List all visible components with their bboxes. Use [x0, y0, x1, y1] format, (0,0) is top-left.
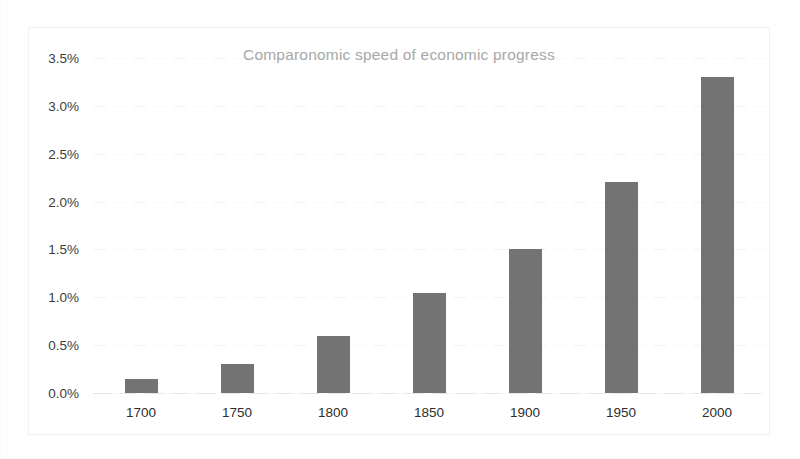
- y-axis-tick-label: 3.0%: [48, 98, 79, 113]
- gridline: [93, 154, 765, 155]
- bar: [125, 379, 158, 393]
- y-axis-tick-label: 0.5%: [48, 338, 79, 353]
- x-axis-tick-label: 1800: [318, 405, 348, 420]
- x-axis-tick-label: 1750: [222, 405, 252, 420]
- x-axis-tick-label: 1700: [126, 405, 156, 420]
- x-axis-tick-label: 1850: [414, 405, 444, 420]
- gridline: [93, 249, 765, 250]
- y-axis-tick-label: 2.0%: [48, 194, 79, 209]
- gridline: [93, 58, 765, 59]
- chart-screenshot: Comparonomic speed of economic progress …: [0, 0, 800, 459]
- y-axis-tick-label: 3.5%: [48, 51, 79, 66]
- bar: [221, 364, 254, 393]
- gridline: [93, 202, 765, 203]
- bar: [413, 293, 446, 394]
- x-axis-tick-label: 1900: [510, 405, 540, 420]
- x-axis-tick-label: 1950: [606, 405, 636, 420]
- x-axis-tick-label: 2000: [702, 405, 732, 420]
- y-axis-tick-label: 2.5%: [48, 146, 79, 161]
- gridline: [93, 106, 765, 107]
- bar: [605, 182, 638, 393]
- plot-area: 0.0%0.5%1.0%1.5%2.0%2.5%3.0%3.5% 1700175…: [93, 58, 765, 393]
- y-axis-tick-label: 1.5%: [48, 242, 79, 257]
- y-axis-tick-label: 1.0%: [48, 290, 79, 305]
- bar: [701, 77, 734, 393]
- chart-frame: Comparonomic speed of economic progress …: [28, 27, 770, 435]
- y-axis-tick-label: 0.0%: [48, 386, 79, 401]
- bar: [317, 336, 350, 393]
- gridline: [93, 393, 765, 394]
- bar: [509, 249, 542, 393]
